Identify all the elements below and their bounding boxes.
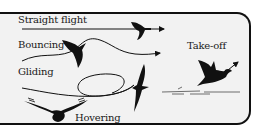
- gliding-path: [22, 74, 134, 96]
- label-straight-flight: Straight flight: [18, 14, 87, 25]
- takeoff-bird-icon: [197, 60, 238, 86]
- water-surface-icon: [162, 87, 240, 94]
- straight-flight-bird-icon: [131, 22, 151, 40]
- label-take-off: Take-off: [187, 40, 226, 51]
- bouncing-bird-icon: [62, 40, 86, 68]
- label-gliding: Gliding: [18, 66, 53, 77]
- gliding-bird-icon: [132, 64, 149, 112]
- label-bouncing: Bouncing: [18, 39, 64, 50]
- label-hovering: Hovering: [75, 112, 121, 123]
